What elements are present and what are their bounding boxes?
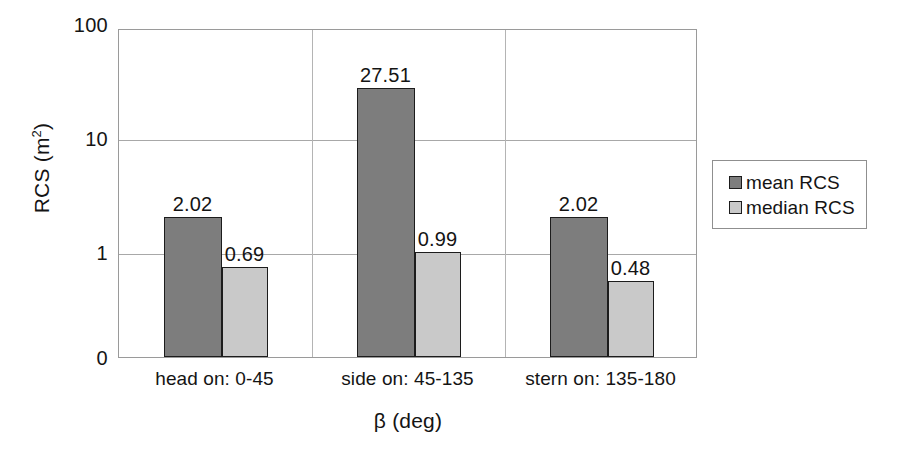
chart-figure: RCS (m2) 1001010 2.020.6927.510.992.020.… [0, 0, 902, 452]
y-axis-label-exponent: 2 [29, 130, 44, 137]
x-axis-label: β (deg) [118, 409, 698, 433]
bar [164, 217, 222, 357]
legend-item[interactable]: mean RCS [729, 170, 866, 195]
bar [357, 88, 415, 357]
y-axis-ticks: 1001010 [46, 29, 108, 358]
gridline-vertical [505, 30, 506, 357]
bar [415, 252, 461, 357]
bar-value-label: 2.02 [559, 193, 599, 216]
bar-value-label: 0.69 [225, 243, 265, 266]
legend-swatch-icon [729, 176, 742, 189]
bar-value-label: 2.02 [173, 193, 213, 216]
bar [608, 281, 654, 357]
legend-item-label: median RCS [746, 197, 855, 219]
legend-swatch-icon [729, 201, 742, 214]
chart-legend: mean RCSmedian RCS [712, 160, 867, 229]
bar-value-label: 0.99 [418, 228, 458, 251]
legend-item[interactable]: median RCS [729, 195, 866, 220]
bar-value-label: 0.48 [611, 257, 651, 280]
bar [550, 217, 608, 357]
gridline-vertical [312, 30, 313, 357]
x-axis-category-label: head on: 0-45 [155, 368, 274, 390]
plot-area: 2.020.6927.510.992.020.48 [118, 29, 697, 358]
y-axis-tick-label: 10 [52, 128, 108, 151]
x-axis-category-label: stern on: 135-180 [525, 368, 676, 390]
bar-value-label: 27.51 [360, 64, 411, 87]
y-axis-tick-label: 0 [52, 347, 108, 370]
y-axis-tick-label: 100 [52, 14, 108, 37]
y-axis-tick-label: 1 [52, 242, 108, 265]
legend-item-label: mean RCS [746, 172, 840, 194]
bar [222, 267, 268, 357]
x-axis-category-label: side on: 45-135 [341, 368, 474, 390]
